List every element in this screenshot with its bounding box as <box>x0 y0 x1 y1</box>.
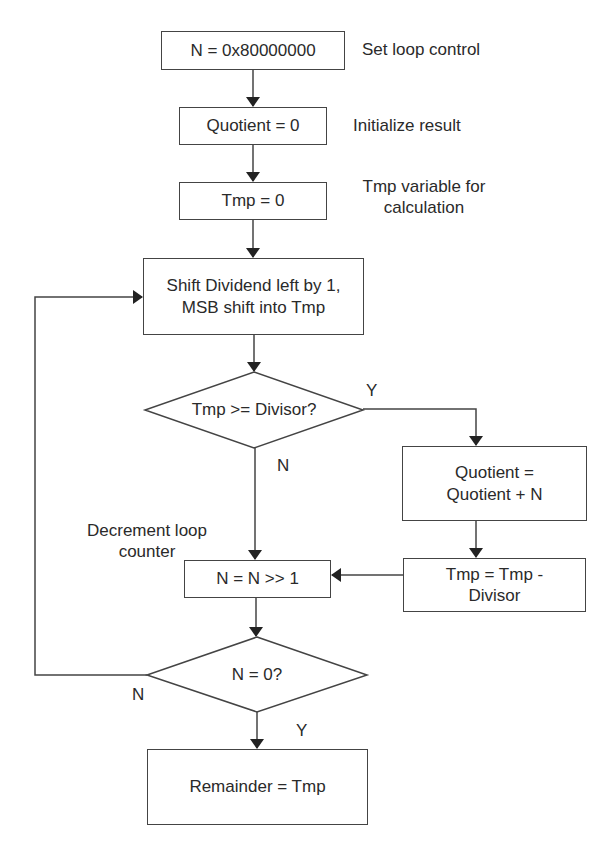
shift-n-text: N = N >> 1 <box>216 568 299 589</box>
quotient-add-text: Quotient = Quotient + N <box>428 462 561 505</box>
init-quotient-box: Quotient = 0 <box>179 107 327 145</box>
init-n-box: N = 0x80000000 <box>161 31 345 70</box>
init-quotient-text: Quotient = 0 <box>206 115 299 136</box>
decision-divisor-text: Tmp >= Divisor? <box>192 400 317 420</box>
shift-n-box: N = N >> 1 <box>184 560 331 598</box>
zero-no-label: N <box>132 684 144 705</box>
zero-yes-label: Y <box>296 720 307 741</box>
init-tmp-box: Tmp = 0 <box>179 182 327 220</box>
shift-text: Shift Dividend left by 1, MSB shift into… <box>154 275 353 318</box>
tmp-sub-text: Tmp = Tmp - Divisor <box>434 564 555 607</box>
init-tmp-text: Tmp = 0 <box>222 190 285 211</box>
divisor-no-label: N <box>277 455 289 476</box>
divisor-yes-label: Y <box>366 380 377 401</box>
init-result-annotation: Initialize result <box>353 115 461 136</box>
set-loop-annotation: Set loop control <box>362 39 480 60</box>
remainder-text: Remainder = Tmp <box>189 776 325 797</box>
remainder-box: Remainder = Tmp <box>147 749 368 825</box>
tmp-sub-box: Tmp = Tmp - Divisor <box>403 558 586 612</box>
tmp-var-annotation: Tmp variable for calculation <box>344 176 504 219</box>
decision-zero-text: N = 0? <box>232 665 283 685</box>
quotient-add-box: Quotient = Quotient + N <box>402 446 587 521</box>
shift-box: Shift Dividend left by 1, MSB shift into… <box>143 258 364 335</box>
init-n-text: N = 0x80000000 <box>190 40 315 61</box>
decrement-annotation: Decrement loop counter <box>72 520 222 563</box>
